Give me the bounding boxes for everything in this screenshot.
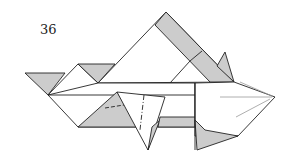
bar-gray — [158, 117, 195, 127]
right-head — [195, 82, 275, 136]
origami-model — [0, 0, 287, 167]
